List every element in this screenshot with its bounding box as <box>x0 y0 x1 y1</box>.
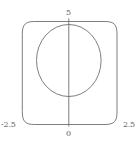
x-axis-tick-label-zero: 0 <box>0 129 137 138</box>
y-axis-tick-label-top: 5 <box>0 8 137 17</box>
plot-canvas <box>0 0 137 147</box>
plot-figure: 5 0 -2.5 2.5 <box>0 0 137 147</box>
superellipse-curve <box>22 22 117 125</box>
x-axis-tick-label-min: -2.5 <box>1 120 16 129</box>
x-axis-tick-label-max: 2.5 <box>123 120 135 129</box>
